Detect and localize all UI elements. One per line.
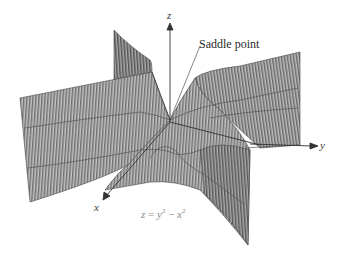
y-axis-label: y <box>320 140 325 151</box>
surface-back-left-flap <box>114 30 152 80</box>
equation-label: z = y2 − x2 <box>141 208 186 220</box>
eq-minus: − <box>165 208 177 220</box>
eq-exp2: 2 <box>182 207 186 215</box>
saddle-surface-plot <box>0 0 341 259</box>
z-axis-arrowhead <box>167 23 173 30</box>
y-axis-arrowhead <box>310 143 318 149</box>
eq-equals: = <box>145 208 157 220</box>
surface-front-right-flap <box>200 145 250 245</box>
saddle-figure: Saddle point z y x z = y2 − x2 <box>0 0 341 259</box>
saddle-point-label: Saddle point <box>199 38 259 50</box>
x-axis-label: x <box>94 202 99 213</box>
z-axis-label: z <box>167 10 171 21</box>
